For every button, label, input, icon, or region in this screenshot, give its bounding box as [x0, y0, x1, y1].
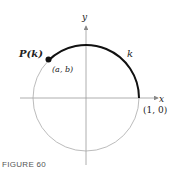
start-point-label: (1, 0) — [143, 105, 167, 115]
arc-label: k — [127, 48, 133, 59]
x-axis-label: x — [159, 94, 164, 104]
figure-caption: FIGURE 60 — [2, 160, 46, 169]
point-coords-label: (a, b) — [52, 65, 73, 74]
point-name-label: P(k) — [18, 48, 43, 59]
y-axis-label: y — [81, 12, 88, 22]
unit-circle-diagram: y x P(k) (a, b) k (1, 0) — [0, 0, 176, 173]
point-p — [46, 57, 52, 63]
